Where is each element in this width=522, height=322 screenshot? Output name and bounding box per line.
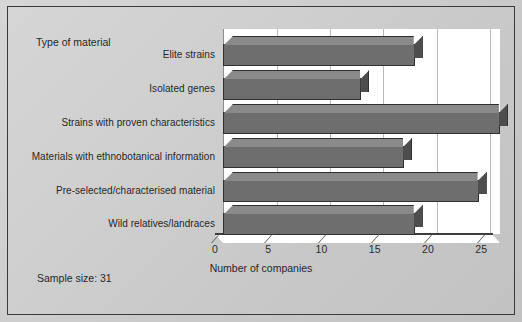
x-axis-tick-label: 25	[466, 243, 496, 255]
y-axis-tick-label: Pre-selected/characterised material	[56, 185, 215, 196]
chart-figure: Type of material Elite strainsIsolated g…	[0, 0, 522, 322]
y-axis-tick-label: Materials with ethnobotanical informatio…	[32, 151, 215, 162]
x-axis-tick-label: 20	[413, 243, 443, 255]
bar-top-face	[224, 172, 478, 181]
bar-top-face	[224, 70, 360, 79]
bar-top-face	[224, 205, 414, 214]
y-axis-tick-label: Elite strains	[163, 49, 215, 60]
bar-top-face	[224, 104, 499, 113]
bar	[223, 78, 361, 100]
y-axis-tick-label: Strains with proven characteristics	[62, 117, 215, 128]
x-axis-tick-label: 5	[253, 243, 283, 255]
sample-size-note: Sample size: 31	[37, 272, 112, 284]
bar	[223, 44, 415, 66]
bar	[223, 112, 500, 134]
bar	[223, 146, 404, 168]
y-axis-tick-label: Isolated genes	[149, 83, 215, 94]
x-axis-tick-label: 10	[307, 243, 337, 255]
plot-floor	[215, 234, 500, 243]
x-axis-tick-label: 15	[360, 243, 390, 255]
x-axis-tick-label: 0	[200, 243, 230, 255]
bar-top-face	[224, 36, 414, 45]
y-axis-tick-label: Wild relatives/landraces	[108, 218, 215, 229]
bar	[223, 180, 479, 202]
y-axis-title: Type of material	[36, 36, 111, 48]
bar-top-face	[224, 138, 403, 147]
bar	[223, 213, 415, 235]
